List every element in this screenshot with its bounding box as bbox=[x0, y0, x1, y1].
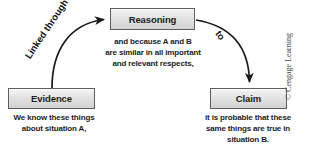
node-evidence-label: Evidence bbox=[31, 93, 72, 104]
node-evidence-caption: We know these things about situation A, bbox=[0, 112, 108, 134]
copyright-credit: © Cengage Learning bbox=[284, 19, 293, 115]
node-claim-caption: it is probable that these same things ar… bbox=[198, 112, 298, 146]
node-reasoning-caption: and because A and B are similar in all i… bbox=[88, 36, 218, 70]
node-reasoning-label: Reasoning bbox=[129, 14, 177, 25]
caption-line: and because A and B bbox=[88, 36, 218, 47]
caption-line: and relevant respects, bbox=[88, 58, 218, 69]
caption-line: We know these things bbox=[0, 112, 108, 123]
node-claim-label: Claim bbox=[236, 93, 261, 104]
diagram-canvas: Reasoning and because A and B are simila… bbox=[0, 0, 312, 158]
caption-line: are similar in all important bbox=[88, 47, 218, 58]
node-claim: Claim bbox=[210, 88, 287, 109]
caption-line: about situation A, bbox=[0, 123, 108, 134]
caption-line: same things are true in bbox=[198, 123, 298, 134]
caption-line: situation B. bbox=[198, 134, 298, 145]
node-evidence: Evidence bbox=[8, 88, 95, 109]
node-reasoning: Reasoning bbox=[110, 8, 195, 30]
